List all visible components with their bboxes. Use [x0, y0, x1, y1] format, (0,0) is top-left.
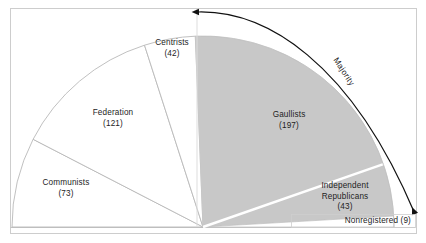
chart-canvas [0, 0, 426, 243]
label-nonregistered: Nonregistered (9) [295, 216, 411, 225]
seat-chart: Communists (73) Federation (121) Centris… [0, 0, 426, 243]
label-nonregistered-text: Nonregistered (9) [345, 216, 411, 225]
